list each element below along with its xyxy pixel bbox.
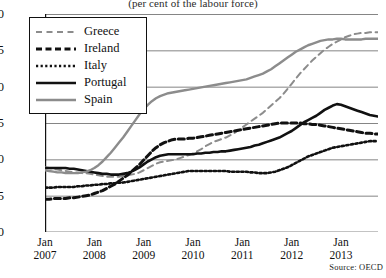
legend-item-ireland[interactable]: Ireland xyxy=(35,40,140,57)
x-tick-label: Jan2013 xyxy=(311,236,371,261)
x-tick-year: 2013 xyxy=(311,249,371,262)
legend-item-italy[interactable]: Italy xyxy=(35,57,140,74)
unemployment-line-chart: (per cent of the labour force) 051015202… xyxy=(0,0,386,278)
legend-item-greece[interactable]: Greece xyxy=(35,23,140,40)
legend-swatch-ireland xyxy=(35,43,77,55)
y-tick-label: 10 xyxy=(0,152,4,167)
legend-swatch-portugal xyxy=(35,77,77,89)
chart-legend: GreeceIrelandItalyPortugalSpain xyxy=(29,17,147,114)
legend-swatch-greece xyxy=(35,26,77,38)
legend-label: Italy xyxy=(84,58,107,73)
legend-swatch-spain xyxy=(35,94,77,106)
y-tick-label: 0 xyxy=(0,225,4,240)
y-tick-label: 20 xyxy=(0,79,4,94)
series-line-ireland xyxy=(45,123,378,199)
chart-subtitle: (per cent of the labour force) xyxy=(0,0,386,9)
legend-label: Ireland xyxy=(84,41,119,56)
source-note: Source: OECD xyxy=(329,262,383,272)
series-line-portugal xyxy=(45,104,378,174)
legend-swatch-italy xyxy=(35,60,77,72)
y-tick-label: 30 xyxy=(0,7,4,22)
legend-label: Greece xyxy=(84,24,119,39)
legend-label: Spain xyxy=(84,92,112,107)
legend-item-spain[interactable]: Spain xyxy=(35,91,140,108)
legend-label: Portugal xyxy=(84,75,126,90)
legend-item-portugal[interactable]: Portugal xyxy=(35,74,140,91)
y-tick-label: 15 xyxy=(0,116,4,131)
y-tick-label: 25 xyxy=(0,43,4,58)
y-tick-label: 5 xyxy=(0,188,4,203)
x-tick-month: Jan xyxy=(311,236,371,249)
series-line-italy xyxy=(45,141,378,188)
